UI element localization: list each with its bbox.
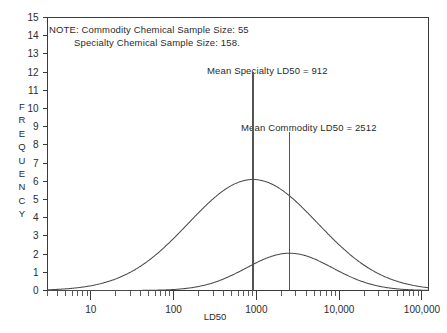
- y-tick-label: 0: [33, 285, 39, 296]
- y-tick-label: 15: [27, 12, 39, 23]
- x-tick-label: 100,000: [404, 304, 441, 315]
- x-tick-label: 10: [85, 304, 97, 315]
- y-tick-label: 6: [33, 176, 39, 187]
- y-tick-label: 11: [28, 85, 39, 96]
- y-axis-title-letter: C: [19, 195, 26, 206]
- x-axis-minor-ticks: [48, 291, 422, 300]
- x-tick-label: 10,000: [324, 304, 355, 315]
- x-tick-label: 100: [165, 304, 182, 315]
- note-line-2: Specialty Chemical Sample Size: 158.: [74, 37, 240, 48]
- note-line-1: NOTE: Commodity Chemical Sample Size: 55: [49, 24, 249, 35]
- x-tick-label: 1000: [245, 304, 268, 315]
- chart-svg: 0123456789101112131415 10100100010,00010…: [0, 0, 447, 333]
- curve-commodity-chemical: [48, 253, 429, 290]
- y-axis-title-letter: E: [19, 168, 25, 179]
- y-axis-ticks: [43, 18, 48, 291]
- y-tick-label: 9: [33, 121, 39, 132]
- y-tick-label: 4: [33, 212, 39, 223]
- y-axis-title-letter: E: [19, 128, 25, 139]
- y-tick-label: 12: [27, 67, 39, 78]
- y-tick-label: 3: [33, 230, 39, 241]
- y-tick-label: 1: [33, 267, 39, 278]
- distribution-curves: [48, 179, 429, 290]
- y-axis-title-letter: N: [19, 181, 26, 192]
- y-tick-label: 8: [33, 139, 39, 150]
- mean-commodity-label: Mean Commodity LD50 = 2512: [241, 122, 377, 133]
- y-axis-title-letter: Q: [18, 141, 25, 152]
- mean-vertical-lines: [253, 72, 289, 290]
- mean-specialty-label: Mean Specialty LD50 = 912: [207, 65, 328, 76]
- plot-frame: [48, 18, 429, 291]
- y-axis-title: FREQUENCY: [18, 101, 26, 219]
- y-tick-label: 14: [27, 30, 39, 41]
- x-axis-title: LD50: [204, 311, 227, 322]
- x-axis-tick-labels: 10100100010,000100,000: [85, 304, 440, 315]
- y-tick-label: 7: [33, 158, 39, 169]
- y-tick-label: 13: [27, 48, 39, 59]
- y-tick-label: 5: [33, 194, 39, 205]
- y-axis-title-letter: U: [19, 155, 26, 166]
- y-axis-title-letter: F: [19, 101, 25, 112]
- y-axis-title-letter: Y: [19, 208, 26, 219]
- y-axis-tick-labels: 0123456789101112131415: [27, 12, 39, 296]
- chart-figure: 0123456789101112131415 10100100010,00010…: [0, 0, 447, 333]
- curve-specialty-chemical: [48, 179, 429, 289]
- y-tick-label: 2: [33, 249, 39, 260]
- y-axis-title-letter: R: [19, 114, 26, 125]
- y-tick-label: 10: [27, 103, 39, 114]
